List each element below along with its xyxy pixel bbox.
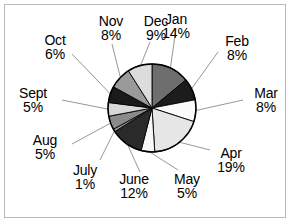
slice-label-mar: Mar 8%	[243, 86, 289, 114]
slice-label-mar-name: Mar	[243, 86, 289, 100]
slice-label-oct-name: Oct	[31, 33, 79, 47]
slice-label-aug-name: Aug	[21, 133, 69, 147]
slice-label-apr-name: Apr	[205, 146, 257, 160]
slice-label-nov-name: Nov	[87, 14, 135, 28]
slice-label-mar-percent: 8%	[243, 100, 289, 114]
slice-label-may-percent: 5%	[163, 186, 211, 200]
leader-line-may	[148, 151, 178, 170]
leader-line-nov	[112, 44, 121, 79]
slice-label-june: June 12%	[107, 172, 161, 200]
slice-label-nov: Nov 8%	[87, 14, 135, 42]
slice-label-july-percent: 1%	[61, 177, 109, 191]
leader-line-sept	[62, 100, 109, 109]
slice-label-june-percent: 12%	[107, 186, 161, 200]
leader-line-dec	[140, 42, 150, 67]
leader-line-aug	[72, 123, 112, 144]
slice-label-dec-percent: 9%	[132, 28, 180, 42]
leader-line-july	[100, 130, 115, 160]
slice-label-sept-percent: 5%	[6, 100, 60, 114]
slice-label-may-name: May	[163, 172, 211, 186]
slice-label-sept: Sept 5%	[6, 86, 60, 114]
slice-label-feb-name: Feb	[212, 34, 262, 48]
slice-label-dec: Dec 9%	[132, 14, 180, 42]
slice-label-apr: Apr 19%	[205, 146, 257, 174]
slice-label-july: July 1%	[61, 163, 109, 191]
slice-label-aug-percent: 5%	[21, 147, 69, 161]
slice-label-may: May 5%	[163, 172, 211, 200]
slice-label-oct-percent: 6%	[31, 47, 79, 61]
slice-label-june-name: June	[107, 172, 161, 186]
slice-label-july-name: July	[61, 163, 109, 177]
slice-label-feb-percent: 8%	[212, 48, 262, 62]
slice-label-dec-name: Dec	[132, 14, 180, 28]
slice-label-nov-percent: 8%	[87, 28, 135, 42]
slice-label-apr-percent: 19%	[205, 160, 257, 174]
pie-chart-figure: Jan 14% Feb 8% Mar 8% Apr 19% May 5% Jun…	[0, 0, 292, 224]
slice-label-sept-name: Sept	[6, 86, 60, 100]
slice-label-oct: Oct 6%	[31, 33, 79, 61]
leader-line-mar	[195, 100, 243, 111]
slice-label-aug: Aug 5%	[21, 133, 69, 161]
slice-label-feb: Feb 8%	[212, 34, 262, 62]
